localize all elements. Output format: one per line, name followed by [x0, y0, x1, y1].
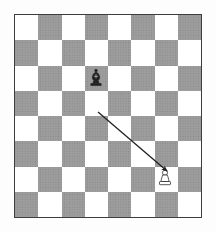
board-square	[155, 192, 178, 217]
board-square	[38, 91, 61, 116]
board-square	[131, 141, 154, 166]
board-square	[178, 192, 201, 217]
board-square	[62, 167, 85, 192]
board-square	[62, 91, 85, 116]
board-square	[108, 40, 131, 65]
board-square	[155, 15, 178, 40]
board-square	[108, 141, 131, 166]
board-square	[108, 66, 131, 91]
board-square	[85, 116, 108, 141]
board-square	[62, 15, 85, 40]
board-square	[108, 116, 131, 141]
board-square	[85, 167, 108, 192]
board-square	[62, 141, 85, 166]
board-square	[62, 66, 85, 91]
board-square	[108, 167, 131, 192]
board-square	[178, 91, 201, 116]
board-square	[85, 15, 108, 40]
board-square	[62, 116, 85, 141]
board-square	[38, 192, 61, 217]
board-square	[15, 40, 38, 65]
board-square	[15, 15, 38, 40]
board-square	[38, 15, 61, 40]
board-square	[155, 66, 178, 91]
board-square	[15, 116, 38, 141]
board-square	[62, 192, 85, 217]
board-square	[38, 116, 61, 141]
chessboard-grid	[15, 15, 201, 217]
board-square	[178, 15, 201, 40]
board-square	[108, 15, 131, 40]
chess-diagram-figure	[0, 0, 216, 232]
board-square	[178, 116, 201, 141]
board-square	[155, 40, 178, 65]
board-square	[62, 40, 85, 65]
board-square	[131, 40, 154, 65]
board-square	[131, 15, 154, 40]
board-square	[155, 91, 178, 116]
board-square	[38, 141, 61, 166]
board-square	[155, 116, 178, 141]
board-square	[131, 66, 154, 91]
board-square	[85, 66, 108, 91]
board-square	[15, 192, 38, 217]
board-square	[178, 167, 201, 192]
board-square	[85, 40, 108, 65]
board-square	[155, 141, 178, 166]
board-square	[131, 167, 154, 192]
board-square	[178, 141, 201, 166]
board-square	[108, 91, 131, 116]
board-square	[178, 66, 201, 91]
board-square	[85, 192, 108, 217]
board-square	[108, 192, 131, 217]
board-square	[15, 91, 38, 116]
board-square	[155, 167, 178, 192]
board-square	[85, 91, 108, 116]
board-square	[131, 192, 154, 217]
board-square	[85, 141, 108, 166]
board-square	[131, 91, 154, 116]
board-square	[131, 116, 154, 141]
board-square	[15, 66, 38, 91]
board-square	[15, 167, 38, 192]
board-square	[15, 141, 38, 166]
board-square	[38, 40, 61, 65]
board-square	[38, 66, 61, 91]
board-square	[178, 40, 201, 65]
chessboard	[14, 14, 202, 218]
board-square	[38, 167, 61, 192]
